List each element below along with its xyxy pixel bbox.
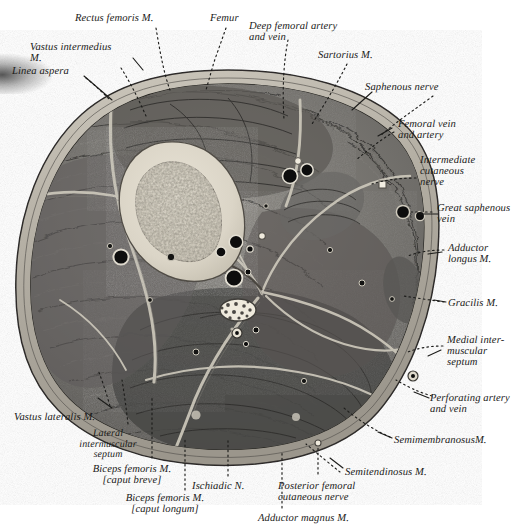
label-linea-aspera: Linea aspera: [12, 66, 69, 77]
label-line: Perforating artery: [430, 393, 510, 404]
label-line: Lateral: [79, 429, 136, 440]
label-perforating-artery: Perforating arteryand vein: [430, 393, 510, 415]
label-line: Femur: [210, 13, 239, 24]
label-line: Vastus lateralis M.: [14, 412, 95, 423]
label-line: Adductor: [448, 243, 491, 254]
label-line: septum: [79, 450, 136, 461]
label-line: nerve: [420, 177, 475, 188]
label-line: Great saphenous: [437, 203, 510, 214]
label-medial-septum: Medial inter-muscularseptum: [447, 335, 504, 369]
label-line: Biceps femoris M.: [126, 493, 205, 504]
perforating-subcutaneous-vessel: [408, 371, 418, 381]
label-line: Sartorius M.: [318, 50, 373, 61]
label-line: Posterior femoral: [278, 481, 355, 492]
label-deep-femoral: Deep femoral arteryand vein: [249, 21, 337, 43]
label-line: Gracilis M.: [448, 298, 498, 309]
label-adductor-longus: Adductorlongus M.: [448, 243, 491, 265]
label-saphenous-nerve: Saphenous nerve: [365, 82, 439, 93]
label-line: and vein: [430, 404, 510, 415]
label-line: cutaneous nerve: [278, 492, 355, 503]
label-line: vein: [437, 214, 510, 225]
label-femur: Femur: [210, 13, 239, 24]
label-intermediate-cutaneous: Intermediatecutaneousnerve: [420, 155, 475, 189]
label-lateral-septum: Lateralintermuscularseptum: [79, 429, 136, 461]
label-femoral-vein-artery: Femoral veinand artery: [398, 119, 456, 141]
label-line: Ischiadic N.: [192, 481, 244, 492]
saphenous-nerve-section: [259, 233, 266, 240]
label-rectus-femoris: Rectus femoris M.: [75, 13, 154, 24]
label-line: cutaneous: [420, 166, 475, 177]
label-gracilis: Gracilis M.: [448, 298, 498, 309]
ischiadic-nerve-section: [220, 299, 256, 321]
label-great-saphenous-vein: Great saphenousvein: [437, 203, 510, 225]
label-line: [caput longum]: [126, 504, 205, 515]
posterior-femoral-cutaneous-nerve-section: [315, 440, 321, 446]
label-line: Biceps femoris M.: [93, 464, 172, 475]
label-line: and vein: [249, 32, 337, 43]
intermediate-cutaneous-nerve-section: [379, 181, 386, 188]
label-line: muscular: [447, 346, 504, 357]
label-line: Intermediate: [420, 155, 475, 166]
label-line: Semitendinosus M.: [345, 467, 427, 478]
label-vastus-lateralis: Vastus lateralis M.: [14, 412, 95, 423]
label-biceps-femoris-breve: Biceps femoris M.[caput breve]: [93, 464, 172, 486]
label-adductor-magnus: Adductor magnus M.: [258, 513, 349, 524]
label-posterior-femoral: Posterior femoralcutaneous nerve: [278, 481, 355, 503]
label-line: Medial inter-: [447, 335, 504, 346]
label-ischiadic-nerve: Ischiadic N.: [192, 481, 244, 492]
label-line: Vastus intermedius: [30, 42, 112, 53]
label-semitendinosus: Semitendinosus M.: [345, 467, 427, 478]
label-line: SemimembranosusM.: [394, 435, 487, 446]
label-sartorius: Sartorius M.: [318, 50, 373, 61]
label-semimembranosus: SemimembranosusM.: [394, 435, 487, 446]
label-line: M.: [30, 53, 112, 64]
label-biceps-femoris-longum: Biceps femoris M.[caput longum]: [126, 493, 205, 515]
label-line: Femoral vein: [398, 119, 456, 130]
label-line: Rectus femoris M.: [75, 13, 154, 24]
label-line: septum: [447, 357, 504, 368]
label-line: and artery: [398, 130, 456, 141]
label-vastus-intermedius: Vastus intermediusM.: [30, 42, 112, 64]
label-line: longus M.: [448, 254, 491, 265]
label-line: Adductor magnus M.: [258, 513, 349, 524]
label-line: Deep femoral artery: [249, 21, 337, 32]
label-line: Linea aspera: [12, 66, 69, 77]
label-line: Saphenous nerve: [365, 82, 439, 93]
label-line: [caput breve]: [93, 475, 172, 486]
